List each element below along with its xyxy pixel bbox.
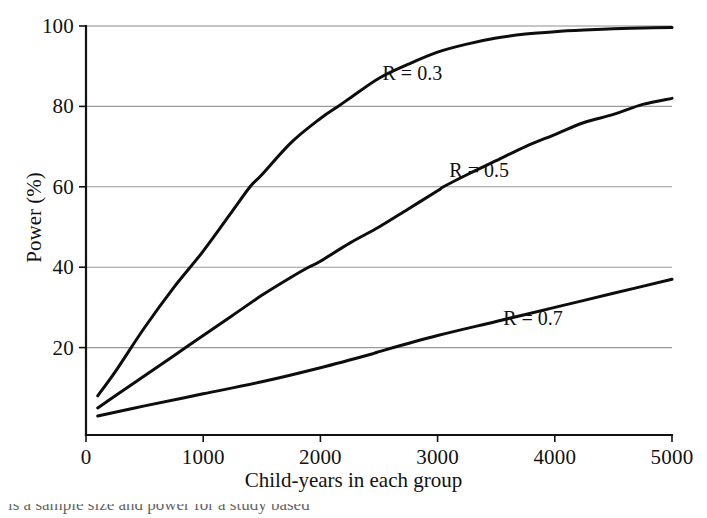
- x-tick-label-3000: 3000: [416, 445, 459, 470]
- y-tick-label-80: 80: [8, 94, 74, 119]
- x-tick-label-5000: 5000: [651, 445, 694, 470]
- axis-lines-group: [86, 26, 672, 435]
- x-tick-label-2000: 2000: [299, 445, 342, 470]
- clipped-caption-strip: is a sample size and power for a study b…: [0, 504, 707, 518]
- series-label-2: R = 0.7: [503, 307, 563, 330]
- chart-canvas: [0, 0, 707, 518]
- y-axis-title: Power (%): [22, 138, 47, 298]
- x-tick-label-4000: 4000: [533, 445, 576, 470]
- tick-marks-group: [79, 26, 672, 442]
- series-label-1: R = 0.5: [449, 159, 509, 182]
- curve-series-1: [98, 98, 672, 408]
- caption-partial-text: is a sample size and power for a study b…: [8, 504, 698, 515]
- power-curve-figure: 20406080100 010002000300040005000 R = 0.…: [0, 0, 707, 518]
- x-tick-label-1000: 1000: [182, 445, 225, 470]
- x-axis-title: Child-years in each group: [0, 468, 707, 493]
- series-label-0: R = 0.3: [383, 62, 443, 85]
- data-curves-group: [98, 28, 672, 416]
- y-tick-label-100: 100: [8, 14, 74, 39]
- x-tick-label-0: 0: [81, 445, 92, 470]
- y-tick-label-20: 20: [8, 335, 74, 360]
